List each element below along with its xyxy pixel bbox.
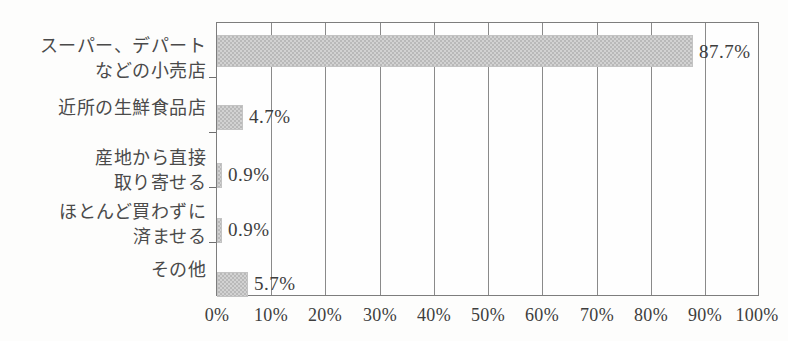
- x-tick-label: 0%: [205, 303, 230, 327]
- category-label: 産地から直接 取り寄せる: [0, 146, 206, 196]
- category-label: 近所の生鮮食品店: [0, 96, 206, 121]
- x-tick-label: 80%: [634, 303, 668, 327]
- bar-retail-store: [217, 35, 693, 67]
- x-tick-label: 100%: [735, 303, 778, 327]
- category-label: その他: [0, 258, 206, 283]
- category-label: ほとんど買わずに 済ませる: [0, 200, 206, 250]
- category-axis-labels: スーパー、デパート などの小売店 近所の生鮮食品店 産地から直接 取り寄せる ほ…: [0, 22, 210, 296]
- bar-direct-from-producer: [217, 163, 222, 188]
- x-tick-label: 30%: [363, 303, 397, 327]
- x-tick-label: 20%: [308, 303, 342, 327]
- x-tick-label: 40%: [417, 303, 451, 327]
- bar-other: [217, 272, 248, 297]
- x-tick-label: 90%: [688, 303, 722, 327]
- x-tick-label: 10%: [254, 303, 288, 327]
- x-tick-label: 60%: [525, 303, 559, 327]
- value-label-direct-from-producer: 0.9%: [228, 165, 270, 184]
- x-tick-label: 70%: [580, 303, 614, 327]
- value-label-retail-store: 87.7%: [699, 42, 751, 61]
- value-label-rarely-buy: 0.9%: [228, 220, 270, 239]
- plot-area: 87.7% 4.7% 0.9% 0.9% 5.7%: [216, 22, 759, 296]
- bar-rarely-buy: [217, 218, 222, 243]
- value-label-other: 5.7%: [254, 274, 296, 293]
- category-label: スーパー、デパート などの小売店: [0, 34, 206, 84]
- bar-local-fresh-food-store: [217, 105, 243, 130]
- x-tick-label: 50%: [471, 303, 505, 327]
- horizontal-bar-chart: スーパー、デパート などの小売店 近所の生鮮食品店 産地から直接 取り寄せる ほ…: [0, 0, 788, 341]
- value-label-local-fresh-food-store: 4.7%: [249, 107, 291, 126]
- x-axis-labels: 0% 10% 20% 30% 40% 50% 60% 70% 80% 90% 1…: [0, 303, 788, 333]
- gridline-90: [705, 23, 706, 295]
